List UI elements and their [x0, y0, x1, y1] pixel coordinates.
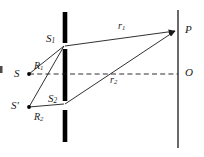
label-path-r1: r1 — [118, 21, 125, 32]
figure-canvas: S S′ S1 S2 R1 R2 r1 r2 P O — [0, 0, 204, 157]
label-path-r2: r2 — [110, 75, 117, 86]
label-path-r1-sub: 1 — [122, 24, 125, 31]
label-point-o: O — [185, 67, 193, 78]
label-slit-s2-sub: 2 — [54, 97, 58, 105]
label-source-s: S — [14, 68, 20, 79]
ray-R2-s-prime-to-slit2 — [29, 104, 64, 107]
ray-r1-slit1-to-p — [65, 31, 175, 46]
label-slit-s1-sub: 1 — [52, 37, 56, 45]
ray-r2-slit2-to-p — [65, 31, 175, 104]
source-s-dot — [27, 72, 31, 76]
label-path-r2-sub: 2 — [114, 78, 117, 85]
ray-s-prime-to-slit1 — [29, 46, 64, 107]
label-source-s-prime: S′ — [11, 100, 19, 111]
label-slit-s2: S2 — [48, 93, 57, 106]
label-path-R1: R1 — [34, 61, 43, 72]
label-slit-s1: S1 — [46, 33, 55, 46]
left-edge-artifact — [0, 66, 3, 73]
label-path-R1-sub: 1 — [40, 64, 43, 71]
label-path-R2-sub: 2 — [40, 115, 43, 122]
ray-diagram-svg — [0, 0, 204, 157]
label-point-p: P — [185, 24, 192, 35]
source-s-prime-dot — [27, 105, 31, 109]
label-path-R2: R2 — [34, 112, 43, 123]
